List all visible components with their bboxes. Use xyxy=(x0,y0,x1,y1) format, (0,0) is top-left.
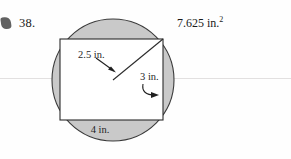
textbook-page: 38. 7.625 in.2 2.5 in. 3 in. 4 in. xyxy=(0,0,291,159)
height-label: 3 in. xyxy=(140,71,159,82)
radius-label: 2.5 in. xyxy=(78,49,105,60)
geometry-figure: 2.5 in. 3 in. 4 in. xyxy=(0,0,291,159)
width-label: 4 in. xyxy=(91,124,110,135)
